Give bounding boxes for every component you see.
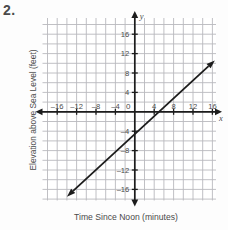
y-tick-label: 4	[125, 88, 129, 97]
x-tick-label: –4	[111, 102, 119, 111]
y-tick-label: –16	[117, 185, 130, 194]
origin-label: 0	[126, 102, 131, 111]
worksheet-problem-figure: 2. Elevation above Sea Level (feet) Time…	[0, 0, 228, 230]
y-tick-label: 8	[125, 69, 129, 78]
x-tick-label: 8	[171, 102, 175, 111]
x-tick-label: 16	[208, 102, 216, 111]
x-tick-label: –12	[70, 102, 83, 111]
x-tick-label: –16	[51, 102, 64, 111]
y-tick-label: –12	[117, 166, 130, 175]
y-tick-label: 16	[121, 30, 129, 39]
x-tick-label: 4	[152, 102, 156, 111]
x-tick-label: 12	[189, 102, 197, 111]
y-axis-name: y	[139, 11, 144, 21]
x-axis-name: x	[218, 113, 223, 123]
x-tick-label: –8	[92, 102, 100, 111]
y-tick-label: 12	[121, 49, 129, 58]
y-tick-label: –8	[121, 146, 129, 155]
y-tick-label: –4	[121, 127, 129, 136]
coordinate-grid-plot: –16–12–8–40481216161284–4–8–12–16 yx	[0, 0, 228, 230]
